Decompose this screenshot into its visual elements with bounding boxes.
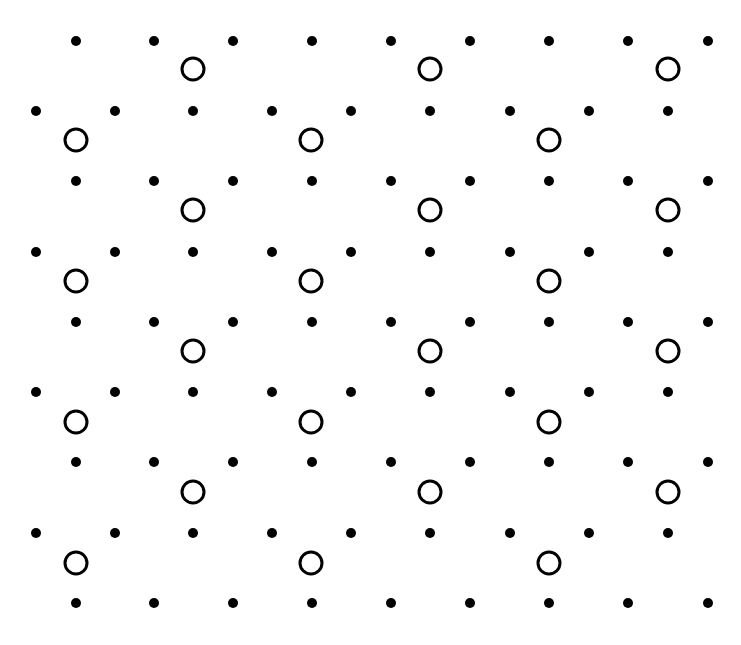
filled-dot: [188, 247, 198, 257]
filled-dot: [663, 528, 673, 538]
open-circle: [65, 129, 87, 151]
open-circle: [65, 411, 87, 433]
open-circle: [300, 552, 322, 574]
filled-dot: [31, 528, 41, 538]
open-circle: [419, 340, 441, 362]
filled-dot: [149, 598, 159, 608]
filled-dot: [425, 106, 435, 116]
filled-dot: [228, 317, 238, 327]
filled-dot: [544, 176, 554, 186]
filled-dot: [267, 387, 277, 397]
filled-dot: [386, 176, 396, 186]
filled-dot: [110, 247, 120, 257]
filled-dot: [307, 36, 317, 46]
open-circle: [182, 199, 204, 221]
filled-dot: [386, 598, 396, 608]
filled-dot: [703, 176, 713, 186]
open-circle: [538, 129, 560, 151]
filled-dot: [110, 528, 120, 538]
filled-dot: [110, 387, 120, 397]
filled-dot: [228, 176, 238, 186]
open-circle: [538, 270, 560, 292]
open-circle: [538, 552, 560, 574]
filled-dots-layer: [31, 36, 713, 608]
filled-dot: [623, 36, 633, 46]
filled-dot: [307, 457, 317, 467]
lattice-diagram: [0, 0, 741, 645]
filled-dot: [623, 598, 633, 608]
filled-dot: [544, 317, 554, 327]
filled-dot: [346, 528, 356, 538]
filled-dot: [703, 36, 713, 46]
filled-dot: [703, 457, 713, 467]
filled-dot: [465, 598, 475, 608]
filled-dot: [346, 106, 356, 116]
filled-dot: [188, 528, 198, 538]
filled-dot: [584, 247, 594, 257]
open-circle: [657, 481, 679, 503]
open-circle: [419, 58, 441, 80]
filled-dot: [386, 317, 396, 327]
open-circle: [300, 270, 322, 292]
filled-dot: [228, 457, 238, 467]
filled-dot: [267, 247, 277, 257]
filled-dot: [110, 106, 120, 116]
filled-dot: [623, 317, 633, 327]
filled-dot: [544, 598, 554, 608]
open-circle: [65, 552, 87, 574]
filled-dot: [307, 317, 317, 327]
filled-dot: [188, 106, 198, 116]
filled-dot: [584, 106, 594, 116]
filled-dot: [188, 387, 198, 397]
filled-dot: [31, 247, 41, 257]
filled-dot: [703, 317, 713, 327]
filled-dot: [149, 176, 159, 186]
filled-dot: [425, 247, 435, 257]
filled-dot: [346, 387, 356, 397]
open-circle: [538, 411, 560, 433]
open-circle: [419, 481, 441, 503]
filled-dot: [465, 317, 475, 327]
filled-dot: [584, 387, 594, 397]
filled-dot: [149, 36, 159, 46]
filled-dot: [465, 36, 475, 46]
filled-dot: [31, 106, 41, 116]
filled-dot: [663, 106, 673, 116]
filled-dot: [307, 176, 317, 186]
filled-dot: [623, 457, 633, 467]
filled-dot: [425, 387, 435, 397]
filled-dot: [544, 36, 554, 46]
filled-dot: [584, 528, 594, 538]
filled-dot: [623, 176, 633, 186]
filled-dot: [505, 528, 515, 538]
open-circle: [300, 129, 322, 151]
filled-dot: [346, 247, 356, 257]
filled-dot: [386, 36, 396, 46]
filled-dot: [71, 36, 81, 46]
filled-dot: [386, 457, 396, 467]
filled-dot: [71, 598, 81, 608]
filled-dot: [703, 598, 713, 608]
open-circle: [657, 340, 679, 362]
filled-dot: [267, 528, 277, 538]
filled-dot: [663, 247, 673, 257]
filled-dot: [307, 598, 317, 608]
open-circle: [657, 58, 679, 80]
filled-dot: [71, 457, 81, 467]
filled-dot: [505, 247, 515, 257]
filled-dot: [663, 387, 673, 397]
filled-dot: [31, 387, 41, 397]
open-circle: [300, 411, 322, 433]
filled-dot: [505, 387, 515, 397]
filled-dot: [505, 106, 515, 116]
open-circle: [182, 340, 204, 362]
filled-dot: [267, 106, 277, 116]
filled-dot: [465, 457, 475, 467]
open-circle: [419, 199, 441, 221]
filled-dot: [425, 528, 435, 538]
filled-dot: [149, 317, 159, 327]
open-circle: [182, 58, 204, 80]
filled-dot: [71, 176, 81, 186]
open-circle: [65, 270, 87, 292]
filled-dot: [544, 457, 554, 467]
